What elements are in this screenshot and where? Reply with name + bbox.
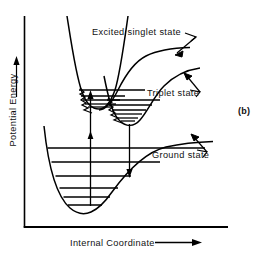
ground-state-label: Ground state [152, 150, 209, 160]
emission-arrow [126, 124, 132, 178]
axes-group [24, 16, 228, 228]
absorption-arrow-midpoint-marker [88, 131, 94, 139]
excited-singlet-state-label: Excited singlet state [92, 27, 181, 37]
potential-energy-diagram: Excited singlet state Triplet state Grou… [0, 0, 277, 259]
y-axis-label: Potential Energy [8, 73, 18, 146]
triplet-state-label: Triplet state [147, 88, 199, 98]
x-axis-arrow-icon [155, 239, 202, 246]
diagram-canvas: Excited singlet state Triplet state Grou… [0, 0, 277, 259]
x-axis-label: Internal Coordinate [70, 238, 155, 248]
panel-label: (b) [238, 106, 250, 116]
